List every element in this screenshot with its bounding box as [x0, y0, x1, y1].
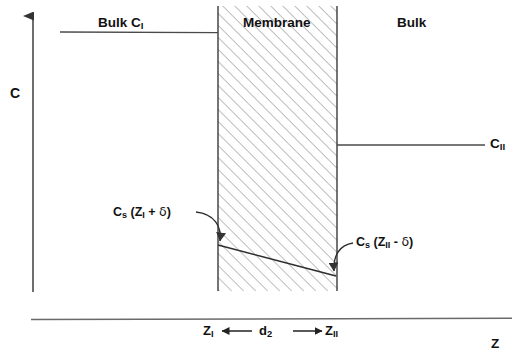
distance-axis [31, 318, 512, 319]
surface-concentration-left-label: Cs (ZI + δ) [113, 206, 171, 220]
y-axis-label: C [10, 86, 20, 100]
x-axis-label: Z [491, 337, 499, 351]
membrane-thickness-label: d2 [259, 324, 272, 339]
membrane-region [218, 6, 337, 291]
bulk-one-level-line [60, 32, 218, 33]
diagram-canvas [0, 0, 521, 359]
bulk-phase-two-label: Bulk [397, 16, 426, 30]
bulk-two-concentration-label: CII [490, 137, 505, 152]
membrane-label: Membrane [243, 16, 311, 30]
cs-left-leader-arrow [196, 212, 220, 241]
position-z-one-label: ZI [203, 324, 214, 339]
surface-concentration-right-label: Cs (ZII - δ) [356, 236, 413, 250]
concentration-profile-diagram: Bulk CI Membrane Bulk C CII Cs (ZI + δ) … [0, 0, 521, 359]
bulk-phase-one-label: Bulk CI [98, 16, 143, 31]
position-z-two-label: ZII [325, 324, 338, 339]
